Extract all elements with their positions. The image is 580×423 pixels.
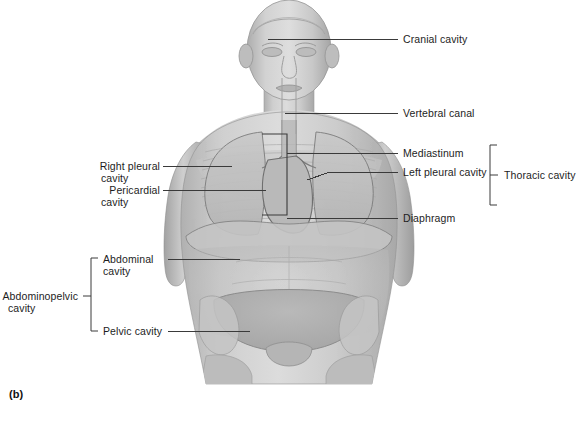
anatomy-figure: Cranial cavity Vertebral canal Mediastin…: [0, 0, 580, 423]
label-diaphragm: Diaphragm: [403, 212, 455, 225]
label-abdominal-cavity-line2: cavity: [103, 265, 130, 278]
abdominopelvic-cavity-bracket: [83, 258, 98, 331]
panel-letter: (b): [9, 388, 23, 400]
label-right-pleural-cavity-line1: Right pleural: [100, 160, 160, 172]
label-abdominopelvic-cavity-line2: cavity: [0, 302, 78, 315]
label-vertebral-canal: Vertebral canal: [403, 107, 475, 120]
label-pelvic-cavity: Pelvic cavity: [103, 325, 162, 338]
label-thoracic-cavity: Thoracic cavity: [504, 169, 576, 182]
label-right-pleural-cavity-line2-row: cavity: [0, 172, 160, 185]
trachea-fill: [282, 120, 296, 158]
label-pericardial-cavity-line2-row: cavity: [0, 196, 160, 209]
ear-right-shape: [325, 44, 339, 68]
label-right-pleural-cavity-line2: cavity: [101, 172, 128, 185]
label-pericardial-cavity-line2: cavity: [101, 196, 128, 209]
label-pericardial-cavity: Pericardial: [0, 184, 160, 197]
body-cavities-illustration: [0, 0, 580, 423]
thoracic-cavity-bracket: [490, 145, 498, 205]
label-right-pleural-cavity: Right pleural: [0, 160, 160, 173]
label-pericardial-cavity-line1: Pericardial: [109, 184, 160, 196]
label-abdominopelvic-cavity: Abdominopelvic: [0, 290, 78, 303]
ear-left-shape: [239, 44, 253, 68]
label-mediastinum: Mediastinum: [403, 147, 464, 160]
label-left-pleural-cavity: Left pleural cavity: [403, 166, 487, 179]
label-cranial-cavity: Cranial cavity: [403, 33, 467, 46]
label-abdominal-cavity: Abdominal: [103, 253, 154, 266]
